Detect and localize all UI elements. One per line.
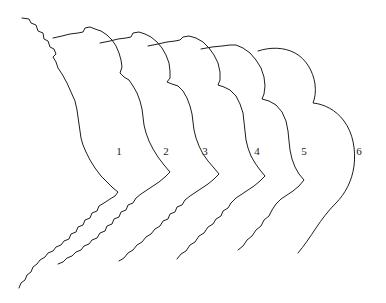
stage-label-1: 1: [116, 145, 122, 157]
stage-label-5: 5: [301, 145, 307, 157]
stage-label-3: 3: [202, 145, 208, 157]
stage-label-4: 4: [254, 145, 260, 157]
fractal-curve-figure: 1 2 3 4 5 6: [0, 0, 386, 303]
stage-label-6: 6: [356, 145, 362, 157]
figure-background: [0, 0, 386, 303]
stage-label-2: 2: [163, 145, 169, 157]
